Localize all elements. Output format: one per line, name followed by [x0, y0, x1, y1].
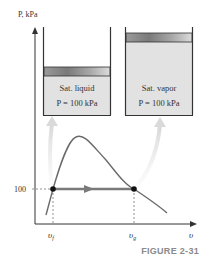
- pointer-arrow-liquid: [50, 122, 52, 186]
- y-axis-arrow-icon: [32, 27, 38, 34]
- pv-diagram: Sat. liquid P = 100 kPa Sat. vapor P = 1…: [0, 0, 204, 260]
- piston: [44, 67, 110, 76]
- cylinder-title: Sat. liquid: [60, 83, 96, 93]
- cylinder-sat-vapor: Sat. vapor P = 100 kPa: [125, 27, 193, 116]
- x-axis-label: υ: [189, 230, 193, 240]
- state-point-g: [131, 186, 137, 192]
- piston: [126, 33, 192, 42]
- pointer-arrow-vapor: [137, 124, 160, 186]
- arrow-head-icon: [154, 117, 166, 127]
- cylinder-pressure: P = 100 kPa: [138, 98, 179, 108]
- tick-label-100: 100: [14, 185, 26, 194]
- v-g-label: υg: [129, 230, 136, 241]
- cylinder-sat-liquid: Sat. liquid P = 100 kPa: [43, 27, 111, 116]
- cylinder-pressure: P = 100 kPa: [56, 98, 97, 108]
- figure-caption: FIGURE 2-31: [141, 246, 199, 256]
- saturation-dome: [46, 136, 167, 215]
- arrow-head-icon: [46, 116, 58, 126]
- liquid-fill: [44, 76, 110, 115]
- cylinder-title: Sat. vapor: [142, 83, 177, 93]
- x-axis-arrow-icon: [190, 221, 197, 227]
- state-point-f: [50, 186, 56, 192]
- v-f-label: υf: [48, 230, 55, 241]
- y-axis-label: P, kPa: [18, 10, 38, 19]
- process-arrow-icon: [84, 185, 94, 193]
